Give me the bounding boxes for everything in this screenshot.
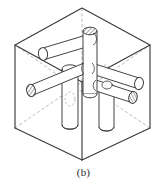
bore-ellipse-right-face [102,81,112,89]
cube-edge-bottom-left [15,128,82,160]
cube-edge-bottom-right [82,128,150,160]
figure-container: (b) [0,0,167,194]
vertical-rod-back-body [83,31,97,94]
figure-caption: (b) [0,166,167,179]
isometric-cube-with-rods-illustration [0,0,167,194]
drawing-layer [15,8,150,160]
vertical-rod-back-bottom-cap [83,94,97,98]
vertical-rod-back [83,27,97,98]
bore-detail-right [102,81,112,89]
